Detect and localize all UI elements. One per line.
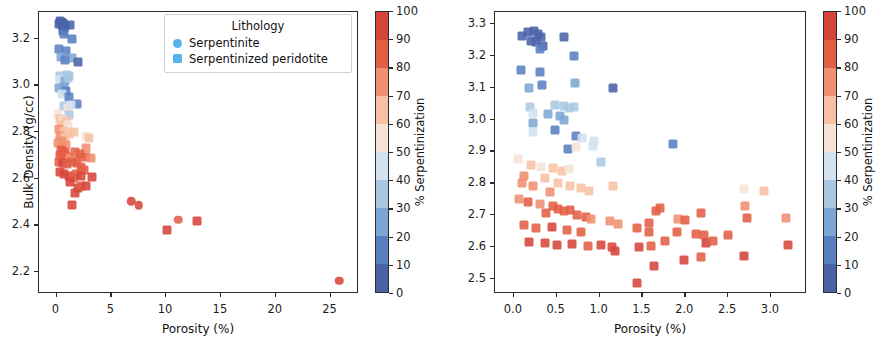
colorbar-title-left: % Serpentinization [413,67,427,237]
y-tick-mark [490,214,494,215]
scatter-point [611,247,620,256]
colorbar-band [824,264,836,292]
scatter-point [559,33,568,42]
colorbar-tick-mark [389,152,393,153]
x-tick-mark [275,293,276,297]
colorbar-tick-label: 10 [396,258,411,272]
scatter-point [528,108,537,117]
scatter-point [563,226,572,235]
scatter-point [635,242,644,251]
colorbar-band [824,40,836,68]
colorbar-tick-label: 90 [396,32,411,46]
scatter-point [724,231,733,240]
scatter-point [585,186,594,195]
scatter-point [518,179,527,188]
scatter-point [587,214,596,223]
y-tick-label: 2.7 [452,207,486,221]
colorbar-tick-mark [389,96,393,97]
scatter-point [741,201,750,210]
colorbar-tick-mark [837,11,841,12]
scatter-point [77,171,86,180]
scatter-point [551,125,560,134]
plot-area-right [495,12,805,292]
scatter-point [163,226,172,235]
scatter-point [578,134,587,143]
x-tick-label: 1.5 [619,302,663,316]
colorbar-tick-mark [389,39,393,40]
scatter-point [544,109,553,118]
colorbar-tick-label: 50 [396,145,411,159]
y-tick-mark [490,119,494,120]
colorbar-band [376,40,388,68]
scatter-point [569,51,578,60]
scatter-point [538,81,547,90]
scatter-point [708,237,717,246]
scatter-point [554,179,563,188]
x-tick-label: 20 [253,302,297,316]
scatter-point [87,153,96,162]
colorbar-tick-mark [837,237,841,238]
scatter-point [568,240,577,249]
colorbar-tick-mark [837,96,841,97]
colorbar-tick-label: 70 [844,89,859,103]
scatter-point [68,200,77,209]
scatter-point [525,84,534,93]
scatter-point [61,56,70,65]
scatter-point [571,142,580,151]
scatter-point [633,278,642,287]
colorbar-tick-label: 0 [396,286,403,300]
x-tick-label: 2.5 [705,302,749,316]
legend-left: Lithology Serpentinite Serpentinized per… [164,14,352,73]
scatter-point [68,34,77,43]
colorbar-band [824,208,836,236]
colorbar-tick-label: 0 [844,286,851,300]
legend-entry-label: Serpentinite [189,36,260,50]
y-tick-label: 3.2 [0,31,30,45]
x-tick-label: 25 [308,302,352,316]
y-tick-mark [490,150,494,151]
colorbar-title-right: % Serpentinization [861,67,875,237]
colorbar-tick-mark [389,208,393,209]
y-tick-label: 3.3 [452,16,486,30]
colorbar-band [376,180,388,208]
scatter-point [743,213,752,222]
scatter-point [532,223,541,232]
scatter-point [647,241,656,250]
x-tick-label: 0 [34,302,78,316]
plot-frame-right [494,11,806,293]
colorbar-tick-label: 20 [396,230,411,244]
colorbar-tick-mark [837,265,841,266]
scatter-point [528,128,537,137]
colorbar-tick-mark [837,152,841,153]
colorbar-tick-label: 40 [396,173,411,187]
y-tick-label: 2.2 [0,264,30,278]
scatter-point [696,209,705,218]
colorbar-tick-label: 70 [396,89,411,103]
scatter-point [535,199,544,208]
scatter-point [633,223,642,232]
scatter-point [566,182,575,191]
scatter-point [681,216,690,225]
colorbar-tick-mark [389,180,393,181]
colorbar-tick-label: 100 [844,4,866,18]
legend-entry-serpentinite: Serpentinite [173,36,343,50]
scatter-point [525,238,534,247]
y-tick-mark [490,87,494,88]
scatter-point [547,222,556,231]
colorbar-tick-mark [837,124,841,125]
scatter-point [528,119,537,128]
scatter-point [576,228,585,237]
scatter-point [514,155,523,164]
scatter-point [66,100,75,109]
scatter-point [583,241,592,250]
scatter-point [588,141,597,150]
scatter-panel-right: 2.52.62.72.82.93.03.13.23.30.00.51.01.52… [448,0,896,344]
colorbar-band [824,152,836,180]
scatter-point [760,186,769,195]
scatter-point [679,255,688,264]
y-tick-mark [490,23,494,24]
scatter-point [739,184,748,193]
x-tick-label: 0.0 [491,302,535,316]
figure-root: 2.22.42.62.83.03.20510152025 Bulk Densit… [0,0,896,344]
colorbar-tick-label: 60 [396,117,411,131]
